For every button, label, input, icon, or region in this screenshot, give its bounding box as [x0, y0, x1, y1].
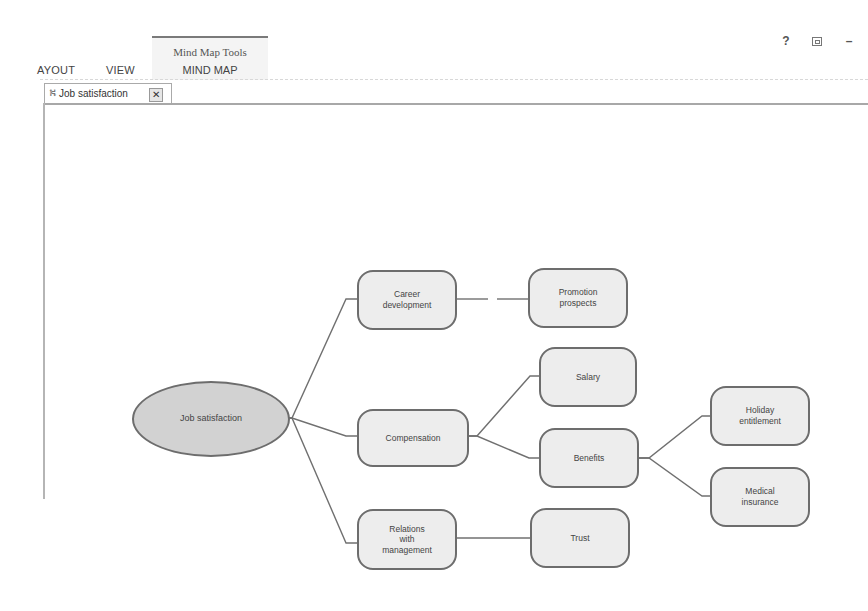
node-compensation[interactable]: Compensation	[357, 409, 469, 467]
connector-benefits-holiday	[638, 416, 711, 458]
node-job-satisfaction[interactable]: Job satisfaction	[132, 381, 290, 457]
connector-root-relations	[289, 418, 358, 543]
node-trust[interactable]: Trust	[530, 508, 630, 568]
node-salary[interactable]: Salary	[539, 347, 637, 407]
node-promotion-prospects[interactable]: Promotion prospects	[528, 268, 628, 328]
node-holiday-entitlement[interactable]: Holiday entitlement	[710, 386, 810, 446]
connector-compensation-benefits	[469, 436, 540, 458]
node-relations-with-management[interactable]: Relations with management	[357, 509, 457, 570]
connector-compensation-salary	[469, 376, 540, 436]
connector-benefits-medical	[638, 458, 711, 496]
node-benefits[interactable]: Benefits	[539, 428, 639, 488]
node-career-development[interactable]: Career development	[357, 270, 457, 330]
connector-root-career	[289, 299, 358, 418]
node-medical-insurance[interactable]: Medical insurance	[710, 467, 810, 527]
